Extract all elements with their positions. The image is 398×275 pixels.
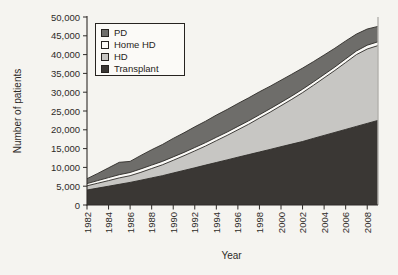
y-tick-label: 10,000 — [51, 162, 80, 173]
y-tick-label: 50,000 — [51, 12, 80, 23]
legend-item-home-hd: Home HD — [101, 39, 184, 51]
x-tick-label: 2006 — [340, 212, 351, 233]
stacked-area-figure: 05,00010,00015,00020,00025,00030,00035,0… — [0, 0, 398, 275]
y-tick-label: 40,000 — [51, 49, 80, 60]
x-tick-label: 2004 — [319, 212, 330, 233]
legend-label: HD — [114, 52, 128, 62]
stacked-area-chart: 05,00010,00015,00020,00025,00030,00035,0… — [0, 0, 398, 275]
y-tick-label: 0 — [75, 200, 80, 211]
x-axis-title: Year — [221, 250, 242, 261]
legend-swatch-transplant — [101, 65, 109, 73]
x-tick-label: 2008 — [362, 212, 373, 233]
legend-label: PD — [114, 28, 127, 38]
x-tick-label: 1998 — [254, 212, 265, 233]
legend-swatch-hd — [101, 53, 109, 61]
y-tick-label: 15,000 — [51, 143, 80, 154]
chart-legend: PDHome HDHDTransplant — [95, 23, 185, 76]
legend-swatch-home-hd — [101, 41, 109, 49]
legend-label: Transplant — [114, 64, 159, 74]
y-tick-label: 25,000 — [51, 106, 80, 117]
x-tick-label: 2000 — [276, 212, 287, 233]
y-axis-title: Number of patients — [12, 69, 23, 154]
x-tick-label: 1996 — [232, 212, 243, 233]
legend-swatch-pd — [101, 29, 109, 37]
y-tick-label: 20,000 — [51, 124, 80, 135]
x-tick-label: 1994 — [211, 212, 222, 233]
y-tick-label: 45,000 — [51, 30, 80, 41]
x-tick-label: 1990 — [168, 212, 179, 233]
y-tick-label: 30,000 — [51, 87, 80, 98]
x-tick-label: 2002 — [297, 212, 308, 233]
y-tick-label: 35,000 — [51, 68, 80, 79]
y-tick-label: 5,000 — [56, 181, 80, 192]
x-tick-label: 1982 — [82, 212, 93, 233]
legend-item-pd: PD — [101, 27, 184, 39]
x-tick-label: 1988 — [146, 212, 157, 233]
legend-item-transplant: Transplant — [101, 63, 184, 75]
legend-item-hd: HD — [101, 51, 184, 63]
legend-label: Home HD — [114, 40, 156, 50]
x-tick-label: 1986 — [125, 212, 136, 233]
x-tick-label: 1984 — [103, 212, 114, 233]
x-tick-label: 1992 — [189, 212, 200, 233]
